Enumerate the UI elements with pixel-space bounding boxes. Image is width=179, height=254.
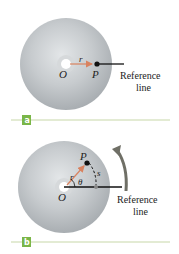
reference-label-line: line: [136, 82, 152, 93]
radius-label: r: [70, 172, 74, 182]
rotation-arrow: [117, 150, 126, 191]
point-label: P: [91, 68, 99, 80]
panel-tag-label: b: [24, 238, 30, 247]
panel-b: P r θ s O Reference line b: [11, 141, 170, 247]
reference-label: Reference: [120, 70, 161, 81]
arc-label: s: [97, 168, 101, 178]
center-label: O: [58, 191, 66, 203]
reference-label-line: line: [133, 206, 149, 217]
angle-label: θ: [78, 177, 83, 187]
radius-label: r: [79, 54, 83, 64]
rotating-disc-diagram: r O P Reference line a P r θ s O Referen…: [0, 0, 179, 254]
point-label: P: [79, 150, 87, 162]
panel-a: r O P Reference line a: [11, 18, 170, 125]
panel-tag-label: a: [25, 116, 30, 125]
reference-point: [94, 185, 98, 189]
center-label: O: [59, 68, 67, 80]
point-p: [94, 61, 99, 66]
reference-label: Reference: [117, 194, 158, 205]
